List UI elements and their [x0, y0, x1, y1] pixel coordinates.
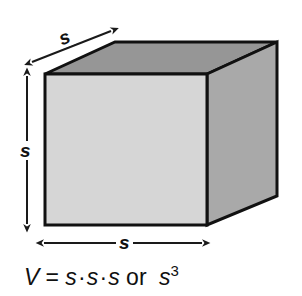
formula-variable: V: [24, 264, 40, 290]
formula-power-base: s: [159, 264, 171, 290]
formula-equals: =: [46, 264, 60, 290]
formula-factor-2: s: [87, 264, 99, 290]
volume-formula: V=s·s·sors3: [24, 262, 284, 294]
formula-factor-3: s: [108, 264, 120, 290]
right-face: [207, 42, 277, 225]
formula-dot-2: ·: [98, 264, 108, 290]
formula-power-exponent: 3: [171, 262, 180, 279]
cube-diagram: [0, 0, 302, 296]
formula-conjunction: or: [126, 264, 147, 290]
formula-factor-1: s: [65, 264, 77, 290]
front-face: [45, 74, 207, 225]
width-label: s: [116, 233, 133, 252]
cube-volume-figure: s s s V=s·s·sors3: [0, 0, 302, 296]
formula-dot-1: ·: [77, 264, 87, 290]
cube-body: [45, 42, 277, 225]
height-label: s: [17, 141, 34, 160]
